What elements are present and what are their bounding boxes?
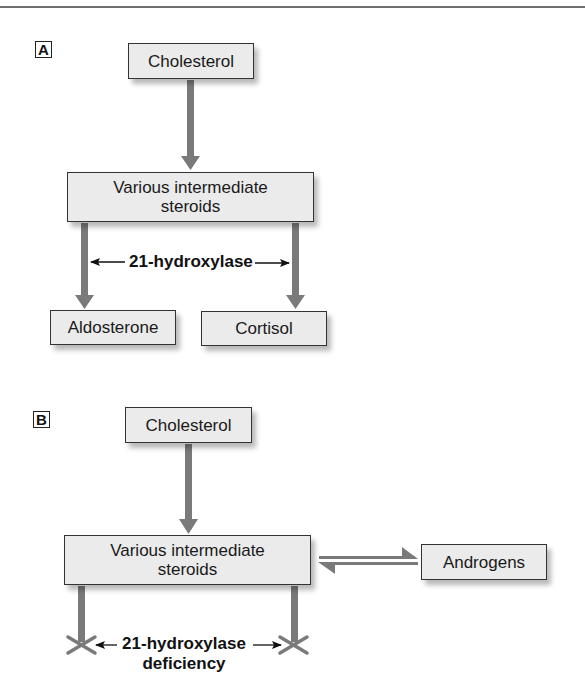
- arrow-cholesterol-to-intermediate-b: [179, 444, 198, 534]
- arrow-cholesterol-to-intermediate-a: [181, 80, 200, 170]
- androgens-box: Androgens: [421, 544, 547, 580]
- panel-label-b: B: [33, 411, 50, 428]
- cortisol-box: Cortisol: [201, 311, 327, 346]
- panel-label-a: A: [35, 41, 52, 58]
- intermediate-steroids-box-a: Various intermediate steroids: [67, 172, 314, 222]
- androgens-label: Androgens: [443, 553, 525, 572]
- enzyme-line2: deficiency: [117, 654, 251, 674]
- arrow-to-cortisol: [286, 223, 305, 309]
- intermediate-line2: steroids: [158, 560, 218, 579]
- cortisol-label: Cortisol: [235, 319, 293, 338]
- equilibrium-arrows: [318, 547, 418, 574]
- arrow-to-aldosterone: [75, 223, 94, 309]
- aldosterone-label: Aldosterone: [68, 318, 159, 337]
- enzyme-label-a: 21-hydroxylase: [127, 252, 255, 272]
- cholesterol-box-a: Cholesterol: [128, 43, 254, 79]
- intermediate-line1: Various intermediate: [110, 541, 265, 560]
- enzyme-deficiency-label: 21-hydroxylase deficiency: [117, 634, 251, 674]
- cholesterol-box-b: Cholesterol: [125, 407, 252, 443]
- intermediate-line1: Various intermediate: [113, 178, 268, 197]
- enzyme-line1: 21-hydroxylase: [117, 634, 251, 654]
- intermediate-steroids-box-b: Various intermediate steroids: [64, 535, 311, 585]
- aldosterone-box: Aldosterone: [50, 310, 176, 345]
- intermediate-line2: steroids: [161, 197, 221, 216]
- cholesterol-label: Cholesterol: [148, 52, 234, 71]
- blocked-shaft-right: [291, 586, 298, 642]
- blocked-shaft-left: [78, 586, 85, 642]
- cholesterol-label: Cholesterol: [146, 416, 232, 435]
